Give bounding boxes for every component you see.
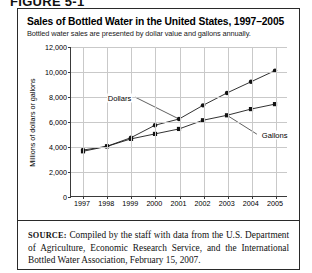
chart-subtitle: Bottled water sales are presented by dol… xyxy=(27,29,290,38)
plot-area: DollarsGallons xyxy=(70,47,287,197)
y-tick-mark xyxy=(68,122,71,123)
x-tick-label: 2003 xyxy=(219,199,235,208)
y-tick-label: 12,000 xyxy=(45,43,67,52)
gridline-vertical xyxy=(107,47,108,196)
x-tick-label: 2005 xyxy=(267,199,283,208)
gridline-vertical xyxy=(204,47,205,196)
x-tick-label: 1999 xyxy=(122,199,138,208)
source-note: SOURCE: Compiled by the staff with data … xyxy=(18,220,299,269)
plot-wrap: Millions of dollars or gallons 02,0004,0… xyxy=(27,47,292,215)
y-tick-label: 10,000 xyxy=(45,68,67,77)
y-axis-title: Millions of dollars or gallons xyxy=(26,47,38,197)
series-label-dollars: Dollars xyxy=(107,93,133,102)
y-tick-mark xyxy=(68,197,71,198)
y-tick-label: 8,000 xyxy=(49,93,67,102)
x-axis-tick-labels: 199719981999200020012002200320042005 xyxy=(70,199,287,213)
gridline-vertical xyxy=(228,47,229,196)
source-label: SOURCE: xyxy=(28,231,67,240)
chart-title: Sales of Bottled Water in the United Sta… xyxy=(27,16,290,27)
y-tick-mark xyxy=(68,72,71,73)
x-tick-label: 1998 xyxy=(98,199,114,208)
source-text: Compiled by the staff with data from the… xyxy=(28,230,289,265)
y-tick-mark xyxy=(68,172,71,173)
gridline-vertical xyxy=(252,47,253,196)
y-tick-label: 4,000 xyxy=(49,143,67,152)
gridline-vertical xyxy=(276,47,277,196)
annotation-leader-line xyxy=(135,97,179,119)
gridline-vertical xyxy=(83,47,84,196)
y-tick-mark xyxy=(68,97,71,98)
x-tick-label: 1997 xyxy=(74,199,90,208)
gridline-vertical xyxy=(180,47,181,196)
x-tick-label: 2001 xyxy=(171,199,187,208)
y-tick-label: 0 xyxy=(63,193,67,202)
series-label-gallons: Gallons xyxy=(261,130,289,139)
x-tick-label: 2002 xyxy=(195,199,211,208)
y-tick-mark xyxy=(68,47,71,48)
x-tick-label: 2004 xyxy=(243,199,259,208)
y-tick-label: 2,000 xyxy=(49,168,67,177)
y-axis-tick-labels: 02,0004,0006,0008,00010,00012,000 xyxy=(38,47,69,197)
gridline-vertical xyxy=(131,47,132,196)
y-tick-mark xyxy=(68,147,71,148)
x-tick-label: 2000 xyxy=(146,199,162,208)
y-tick-label: 6,000 xyxy=(49,118,67,127)
gridline-vertical xyxy=(155,47,156,196)
chart-panel: Sales of Bottled Water in the United Sta… xyxy=(18,9,299,220)
y-axis-title-text: Millions of dollars or gallons xyxy=(28,78,37,166)
figure-box: Sales of Bottled Water in the United Sta… xyxy=(17,8,300,270)
